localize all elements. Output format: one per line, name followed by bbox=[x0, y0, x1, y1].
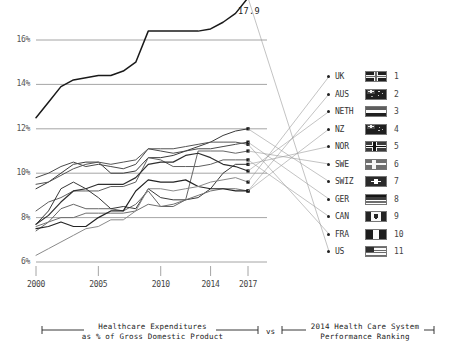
caption-right: 2014 Health Care System Performance Rank… bbox=[290, 322, 440, 342]
legend-dot-icon bbox=[327, 163, 330, 166]
y-tick-label: 6% bbox=[8, 257, 30, 266]
caption-right-line1: 2014 Health Care System bbox=[311, 322, 419, 331]
legend-dot-icon bbox=[327, 198, 330, 201]
x-tick-label: 2017 bbox=[231, 280, 265, 289]
legend-item-nor[interactable]: NOR5 bbox=[327, 138, 399, 155]
canada-flag-icon bbox=[365, 211, 387, 222]
caption-left-line2: as % of Gross Domestic Product bbox=[82, 332, 223, 341]
legend-country-label: US bbox=[335, 247, 365, 256]
legend-dot-icon bbox=[327, 250, 330, 253]
legend-dot-icon bbox=[327, 145, 330, 148]
legend-dot-icon bbox=[327, 110, 330, 113]
germany-flag-icon bbox=[365, 194, 387, 205]
x-tick-label: 2000 bbox=[19, 280, 53, 289]
legend-country-label: GER bbox=[335, 195, 365, 204]
legend-item-nz[interactable]: NZ4 bbox=[327, 121, 399, 138]
y-tick-label: 16% bbox=[8, 35, 30, 44]
series-line-can bbox=[36, 158, 248, 211]
legend-rank-value: 5 bbox=[394, 142, 399, 151]
caption-left: Healthcare Expenditures as % of Gross Do… bbox=[45, 322, 260, 342]
legend-item-can[interactable]: CAN9 bbox=[327, 208, 399, 225]
series-line-us bbox=[36, 0, 248, 118]
series-line-swe bbox=[36, 151, 248, 231]
caption-left-line1: Healthcare Expenditures bbox=[98, 322, 206, 331]
legend-rank-value: 8 bbox=[394, 195, 399, 204]
legend-dot-icon bbox=[327, 233, 330, 236]
legend-dot-icon bbox=[327, 93, 330, 96]
legend-country-label: NETH bbox=[335, 107, 365, 116]
switzerland-flag-icon bbox=[365, 176, 387, 187]
legend-dot-icon bbox=[327, 75, 330, 78]
legend-rank-value: 11 bbox=[394, 247, 404, 256]
sweden-flag-icon bbox=[365, 159, 387, 170]
legend-country-label: CAN bbox=[335, 212, 365, 221]
series-line-fra bbox=[36, 142, 248, 184]
legend-country-label: SWE bbox=[335, 160, 365, 169]
legend-country-label: NOR bbox=[335, 142, 365, 151]
series-line-nz bbox=[36, 180, 248, 229]
legend-connector-can bbox=[248, 160, 329, 217]
norway-flag-icon bbox=[365, 141, 387, 152]
legend-item-neth[interactable]: NETH3 bbox=[327, 103, 399, 120]
legend-country-label: UK bbox=[335, 72, 365, 81]
legend-connector-nz bbox=[248, 129, 329, 191]
legend-item-fra[interactable]: FRA10 bbox=[327, 226, 404, 243]
legend-connector-ger bbox=[248, 142, 329, 199]
legend-connector-us bbox=[248, 0, 329, 251]
legend-dot-icon bbox=[327, 128, 330, 131]
y-tick-label: 8% bbox=[8, 213, 30, 222]
legend-country-label: NZ bbox=[335, 125, 365, 134]
caption-vs: vs bbox=[266, 327, 275, 336]
legend-item-us[interactable]: US11 bbox=[327, 243, 404, 260]
y-tick-label: 10% bbox=[8, 168, 30, 177]
legend-connector-aus bbox=[248, 94, 329, 191]
legend-rank-value: 6 bbox=[394, 160, 399, 169]
netherlands-flag-icon bbox=[365, 106, 387, 117]
caption-right-line2: Performance Ranking bbox=[320, 332, 410, 341]
legend-connector-uk bbox=[248, 77, 329, 183]
peak-value-label: 17.9 bbox=[238, 6, 260, 16]
legend-rank-value: 3 bbox=[394, 107, 399, 116]
y-tick-label: 14% bbox=[8, 79, 30, 88]
x-tick-label: 2014 bbox=[194, 280, 228, 289]
uk-flag-icon bbox=[365, 71, 387, 82]
legend-rank-value: 9 bbox=[394, 212, 399, 221]
legend-item-swe[interactable]: SWE6 bbox=[327, 156, 399, 173]
legend-dot-icon bbox=[327, 215, 330, 218]
france-flag-icon bbox=[365, 229, 387, 240]
x-tick-label: 2010 bbox=[144, 280, 178, 289]
legend-rank-value: 10 bbox=[394, 230, 404, 239]
australia-flag-icon bbox=[365, 89, 387, 100]
series-endpoint-swiz bbox=[246, 127, 249, 130]
legend-country-label: AUS bbox=[335, 90, 365, 99]
chart-page: 6%8%10%12%14%16% 20002005201020142017 17… bbox=[0, 0, 452, 352]
legend-rank-value: 7 bbox=[394, 177, 399, 186]
legend-item-swiz[interactable]: SWIZ7 bbox=[327, 173, 399, 190]
legend-dot-icon bbox=[327, 180, 330, 183]
legend-rank-value: 2 bbox=[394, 90, 399, 99]
legend-rank-value: 1 bbox=[394, 72, 399, 81]
x-tick-label: 2005 bbox=[81, 280, 115, 289]
legend-rank-value: 4 bbox=[394, 125, 399, 134]
series-line-swiz bbox=[36, 129, 248, 189]
legend-item-aus[interactable]: AUS2 bbox=[327, 86, 399, 103]
legend-country-label: SWIZ bbox=[335, 177, 365, 186]
y-tick-label: 12% bbox=[8, 124, 30, 133]
legend-item-uk[interactable]: UK1 bbox=[327, 68, 399, 85]
us-flag-icon bbox=[365, 246, 387, 257]
legend-item-ger[interactable]: GER8 bbox=[327, 191, 399, 208]
new-zealand-flag-icon bbox=[365, 124, 387, 135]
legend-country-label: FRA bbox=[335, 230, 365, 239]
